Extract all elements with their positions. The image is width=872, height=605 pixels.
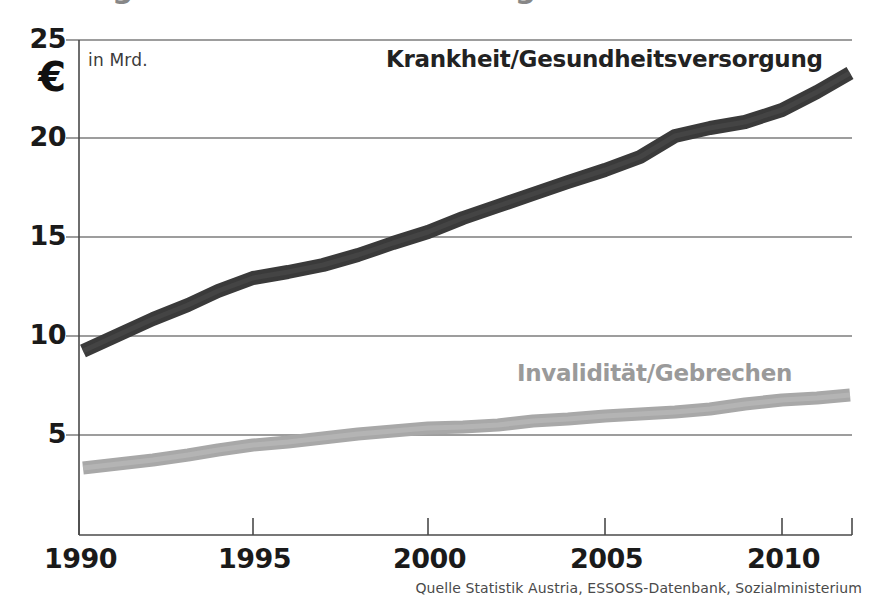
series-krankheit-gesundheitsversorgung bbox=[83, 73, 850, 351]
y-tick-label-5: 5 bbox=[4, 420, 66, 447]
x-tick-label-2010: 2010 bbox=[747, 545, 820, 572]
series-label-invaliditaet-gebrechen: Invalidität/Gebrechen bbox=[517, 362, 792, 385]
y-tick-label-25: 25 bbox=[4, 25, 66, 52]
x-tick-label-2000: 2000 bbox=[393, 545, 466, 572]
series-label-krankheit-gesundheitsversorgung: Krankheit/Gesundheitsversorgung bbox=[386, 48, 823, 71]
x-tick-marks bbox=[79, 500, 852, 535]
y-tick-label-10: 10 bbox=[4, 321, 66, 348]
x-tick-label-1995: 1995 bbox=[218, 545, 291, 572]
x-tick-label-1990: 1990 bbox=[44, 545, 117, 572]
unit-note: in Mrd. bbox=[88, 50, 148, 70]
euro-currency-symbol: € bbox=[4, 57, 66, 97]
source-note: Quelle Statistik Austria, ESSOSS-Datenba… bbox=[415, 580, 862, 596]
series-invaliditaet-gebrechen bbox=[83, 395, 850, 468]
y-tick-label-15: 15 bbox=[4, 222, 66, 249]
chart-canvas bbox=[0, 0, 872, 605]
y-tick-label-20: 20 bbox=[4, 123, 66, 150]
chart-figure: Ausgaben für Sozialleistungen bbox=[0, 0, 872, 605]
x-tick-label-2005: 2005 bbox=[570, 545, 643, 572]
